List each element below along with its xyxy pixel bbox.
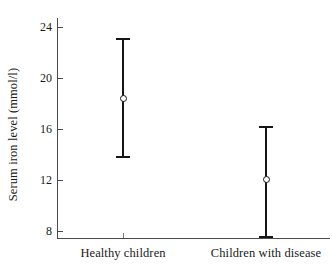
x-axis-tick-healthy-children — [123, 233, 124, 238]
y-axis-title-text: Serum iron level (mmol/l) — [6, 68, 21, 201]
y-axis-tick-24 — [58, 27, 63, 28]
y-axis-label-20: 20 — [30, 72, 52, 84]
x-axis-label-children-with-disease: Children with disease — [190, 245, 332, 261]
y-axis-tick-16 — [58, 129, 63, 130]
y-axis-title: Serum iron level (mmol/l) — [0, 0, 26, 269]
data-point-marker — [120, 95, 127, 102]
data-point-marker — [263, 176, 270, 183]
errorbar-whisker — [265, 127, 267, 238]
y-axis-tick-12 — [58, 180, 63, 181]
error-bar-chart: Serum iron level (mmol/l) 24 20 16 12 8 … — [0, 0, 332, 269]
x-axis-line — [57, 238, 330, 239]
y-axis-label-12: 12 — [30, 174, 52, 186]
y-axis-label-24: 24 — [30, 21, 52, 33]
y-axis-label-8: 8 — [30, 225, 52, 237]
errorbar-cap-lower — [259, 236, 273, 238]
y-axis-tick-8 — [58, 231, 63, 232]
errorbar-cap-lower — [116, 156, 130, 158]
y-axis-label-16: 16 — [30, 123, 52, 135]
y-axis-tick-20 — [58, 78, 63, 79]
x-axis-label-healthy-children: Healthy children — [53, 245, 193, 261]
